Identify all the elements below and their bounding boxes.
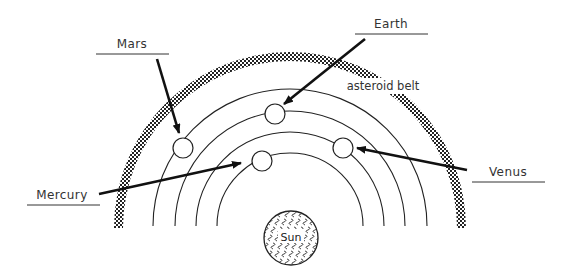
planet-earth: [265, 104, 285, 124]
orbits: [153, 89, 427, 226]
label-text: Earth: [374, 17, 408, 31]
arrow-icon: [99, 163, 241, 194]
sun-label: Sun: [281, 231, 302, 244]
label-mars: Mars: [96, 37, 179, 133]
label-mercury: Mercury: [27, 163, 241, 205]
planet-mars: [173, 138, 193, 158]
label-text: Mars: [117, 37, 148, 51]
sun: Sun: [261, 211, 324, 265]
mars-orbit: [153, 89, 427, 226]
planet-venus: [333, 138, 353, 158]
solar-system-diagram: Sun asteroid belt MarsEarthVenusMercury: [0, 0, 565, 272]
label-text: Mercury: [36, 188, 87, 202]
asteroid-belt-label: asteroid belt: [347, 79, 420, 93]
planet-mercury: [252, 151, 272, 171]
label-text: Venus: [489, 165, 527, 179]
earth-orbit: [175, 111, 405, 226]
